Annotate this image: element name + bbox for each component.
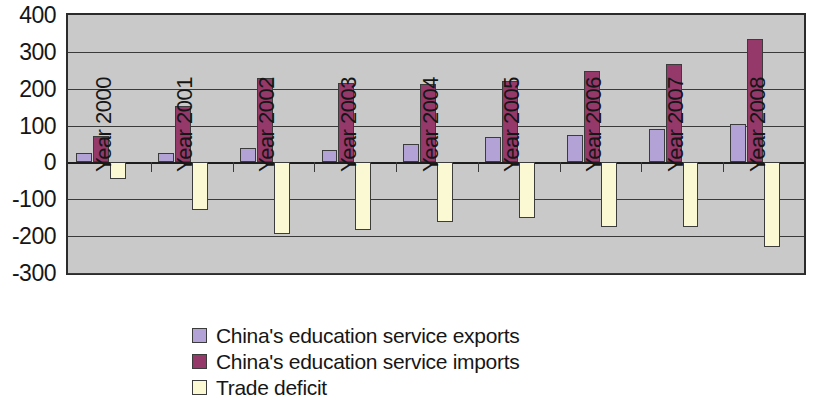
- x-axis-tickmark: [151, 162, 152, 172]
- bar-deficit: [437, 162, 453, 222]
- bar-deficit: [274, 162, 290, 234]
- x-axis-tickmark: [233, 162, 234, 172]
- bar-deficit: [355, 162, 371, 229]
- bar-imports: [420, 84, 436, 162]
- bar-group: [68, 15, 150, 273]
- gridline: [68, 273, 804, 274]
- y-axis-tick-label: 100: [0, 114, 56, 137]
- x-axis-tickmark: [396, 162, 397, 172]
- bar-deficit: [683, 162, 699, 227]
- y-axis-tick-label: -100: [0, 188, 56, 211]
- bar-exports: [322, 150, 338, 163]
- legend-item: China's education service exports: [192, 322, 662, 348]
- legend-label: China's education service imports: [216, 351, 519, 372]
- legend-item: Trade deficit: [192, 374, 662, 400]
- bar-deficit: [601, 162, 617, 227]
- bar-exports: [403, 144, 419, 162]
- legend-label: China's education service exports: [216, 325, 519, 346]
- bar-imports: [93, 136, 109, 163]
- x-axis-tickmark: [723, 162, 724, 172]
- bar-group: [395, 15, 477, 273]
- y-axis-tick-label: 0: [0, 151, 56, 174]
- bar-imports: [502, 81, 518, 162]
- bar-exports: [485, 137, 501, 162]
- legend-swatch-exports: [192, 328, 207, 343]
- bar-exports: [240, 148, 256, 163]
- legend-swatch-imports: [192, 354, 207, 369]
- bar-group: [150, 15, 232, 273]
- bar-deficit: [764, 162, 780, 247]
- y-axis-tick-label: 300: [0, 40, 56, 63]
- bar-group: [477, 15, 559, 273]
- bar-group: [313, 15, 395, 273]
- bar-exports: [158, 153, 174, 162]
- x-axis-tickmark: [478, 162, 479, 172]
- bar-group: [640, 15, 722, 273]
- y-axis-tick-label: -300: [0, 262, 56, 285]
- bar-group: [559, 15, 641, 273]
- bar-imports: [338, 83, 354, 162]
- y-axis-tick-label: 400: [0, 4, 56, 27]
- bar-exports: [76, 153, 92, 162]
- bar-imports: [747, 39, 763, 162]
- x-axis-tickmark: [314, 162, 315, 172]
- bar-group: [722, 15, 804, 273]
- bar-deficit: [192, 162, 208, 210]
- bar-group: [232, 15, 314, 273]
- bar-imports: [257, 78, 273, 162]
- plot-area: [66, 13, 806, 275]
- x-axis-tickmark: [560, 162, 561, 172]
- legend-label: Trade deficit: [216, 377, 327, 398]
- chart-legend: China's education service exportsChina's…: [192, 322, 662, 400]
- bar-imports: [666, 64, 682, 162]
- legend-item: China's education service imports: [192, 348, 662, 374]
- chart-figure: 4003002001000-100-200-300 Year 2000Year …: [0, 0, 824, 402]
- legend-swatch-deficit: [192, 380, 207, 395]
- bar-deficit: [519, 162, 535, 218]
- bar-imports: [584, 71, 600, 162]
- y-axis-tick-label: 200: [0, 77, 56, 100]
- y-axis-tick-label: -200: [0, 225, 56, 248]
- y-axis: 4003002001000-100-200-300: [0, 13, 60, 275]
- bar-deficit: [110, 162, 126, 179]
- bar-groups: [68, 15, 804, 273]
- bar-exports: [567, 135, 583, 163]
- bar-imports: [175, 106, 191, 162]
- plot-inner: [68, 15, 804, 273]
- bar-exports: [730, 124, 746, 163]
- bar-exports: [649, 129, 665, 163]
- x-axis-tickmark: [641, 162, 642, 172]
